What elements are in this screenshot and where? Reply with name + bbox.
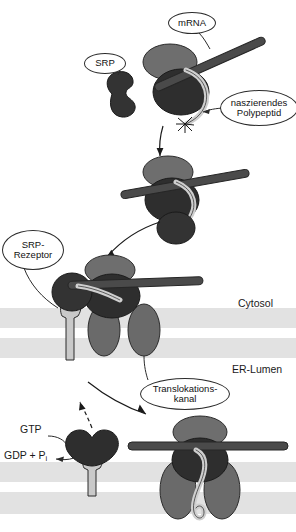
diagram-canvas: mRNA SRP naszierendes Polypeptid [0,0,296,532]
gdp-pi-label: GDP + Pi [4,450,47,461]
gdp-pi-arrowhead [56,456,64,462]
mrna-strand-4 [128,442,288,450]
gdp-pi-text: GDP + P [4,449,46,461]
gdp-pi-subscript: i [46,454,48,463]
srp-recycle-arrowhead [79,402,86,410]
srp-released-molecule [66,430,119,466]
gtp-label: GTP [20,424,42,435]
gtp-leader-line [48,436,68,446]
